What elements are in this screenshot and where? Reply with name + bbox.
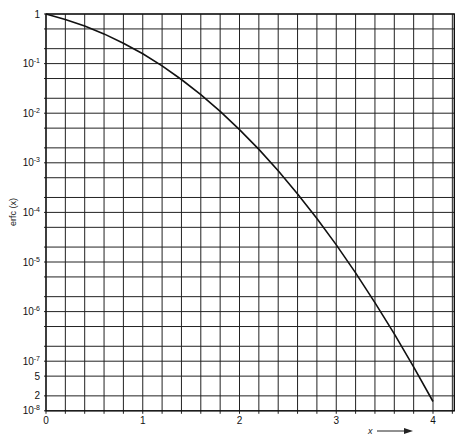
x-tick-label: 1 <box>140 415 146 426</box>
y-tick-label: 10-2 <box>23 107 40 119</box>
x-tick-label: 0 <box>43 415 49 426</box>
erfc-chart: 110-110-210-310-410-510-610-75210-8 0123… <box>0 0 467 442</box>
y-tick-label: 10-6 <box>23 305 40 317</box>
y-tick-label: 10-5 <box>23 256 40 268</box>
y-axis-label: erfc (x) <box>8 198 18 226</box>
y-tick-label: 10-3 <box>23 156 40 168</box>
x-axis-label: x <box>367 426 373 436</box>
y-tick-label: 1 <box>34 9 40 20</box>
x-tick-label: 2 <box>237 415 243 426</box>
x-axis-arrow-icon <box>377 428 413 434</box>
grid <box>44 14 454 414</box>
y-tick-label: 10-1 <box>23 57 40 69</box>
y-tick-label: 10-4 <box>23 206 40 218</box>
y-tick-label: 10-8 <box>23 404 40 416</box>
x-tick-labels: 01234 <box>43 415 436 426</box>
y-tick-label: 10-7 <box>23 355 40 367</box>
x-tick-label: 4 <box>430 415 436 426</box>
y-tick-label: 5 <box>34 371 40 382</box>
y-tick-label: 2 <box>34 390 40 401</box>
y-tick-labels: 110-110-210-310-410-510-610-75210-8 <box>23 9 41 417</box>
x-tick-label: 3 <box>333 415 339 426</box>
